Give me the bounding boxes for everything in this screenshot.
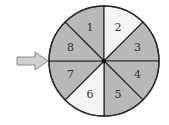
center-hub — [102, 59, 106, 63]
sector-label-1: 1 — [87, 21, 94, 34]
spinner-diagram: 12345678 — [0, 0, 169, 125]
sector-label-4: 4 — [134, 68, 141, 81]
arrow-pointer-icon — [17, 52, 48, 70]
sector-label-2: 2 — [114, 21, 121, 34]
sector-label-7: 7 — [67, 68, 74, 81]
sector-label-5: 5 — [114, 88, 121, 101]
sector-label-8: 8 — [67, 41, 74, 54]
sector-label-6: 6 — [87, 88, 94, 101]
sector-label-3: 3 — [134, 41, 141, 54]
